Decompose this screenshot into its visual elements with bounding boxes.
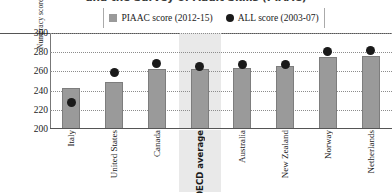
bar-netherlands bbox=[362, 56, 380, 129]
dot-italy bbox=[67, 98, 76, 107]
bar-norway bbox=[319, 57, 337, 129]
gridline bbox=[50, 52, 392, 53]
y-axis-tick-label: 200 bbox=[22, 124, 48, 134]
gridline bbox=[50, 33, 392, 34]
numeracy-score-chart: and the Survey of Adult Skills (PIAAC) P… bbox=[0, 0, 392, 193]
bar-australia bbox=[233, 68, 251, 129]
x-axis-tick-label: Australia bbox=[237, 130, 247, 163]
x-label-australia: Australia bbox=[221, 130, 263, 192]
bar-new-zealand bbox=[276, 66, 294, 129]
dot-canada bbox=[152, 59, 161, 68]
chart-legend: PIAAC score (2012-15) ALL score (2003-07… bbox=[106, 9, 322, 27]
x-axis-line bbox=[50, 128, 392, 129]
x-axis-tick-label: New Zealand bbox=[280, 130, 290, 178]
dot-netherlands bbox=[366, 46, 375, 55]
x-label-canada: Canada bbox=[136, 130, 178, 192]
y-axis-tick-label: 280 bbox=[22, 47, 48, 57]
x-axis-tick-label: Norway bbox=[323, 130, 333, 159]
dot-new-zealand bbox=[281, 60, 290, 69]
x-label-norway: Norway bbox=[307, 130, 349, 192]
dot-australia bbox=[238, 60, 247, 69]
bar-oecd-average bbox=[191, 69, 209, 129]
x-axis-tick-label: Italy bbox=[66, 130, 76, 147]
square-swatch-icon bbox=[109, 14, 117, 22]
x-axis-tick-label: United States bbox=[109, 130, 119, 178]
x-axis-labels: ItalyUnited StatesCanadaOECD averageAust… bbox=[50, 130, 392, 193]
x-label-netherlands: Netherlands bbox=[350, 130, 392, 192]
x-label-italy: Italy bbox=[50, 130, 92, 192]
y-axis-tick-label: 220 bbox=[22, 105, 48, 115]
x-axis-tick-label: OECD average bbox=[195, 130, 205, 193]
y-axis-label: Numeracy score bbox=[36, 0, 45, 49]
dot-norway bbox=[323, 47, 332, 56]
x-label-new-zealand: New Zealand bbox=[264, 130, 306, 192]
gridline bbox=[50, 91, 392, 92]
y-axis-tick-label: 260 bbox=[22, 66, 48, 76]
circle-swatch-icon bbox=[226, 14, 234, 22]
bar-italy bbox=[62, 88, 80, 129]
x-label-oecd-average: OECD average bbox=[179, 130, 221, 192]
y-axis-tick-label: 300 bbox=[22, 28, 48, 38]
legend-entry-piaac: PIAAC score (2012-15) bbox=[109, 13, 212, 23]
y-axis-tick-label: 240 bbox=[22, 86, 48, 96]
chart-title: and the Survey of Adult Skills (PIAAC) bbox=[0, 0, 392, 3]
legend-label-all: ALL score (2003-07) bbox=[238, 13, 319, 23]
gridline bbox=[50, 110, 392, 111]
x-axis-tick-label: Netherlands bbox=[366, 130, 376, 173]
y-axis-line bbox=[50, 33, 51, 129]
legend-entry-all: ALL score (2003-07) bbox=[226, 13, 319, 23]
bar-canada bbox=[148, 69, 166, 129]
gridline bbox=[50, 71, 392, 72]
dot-united-states bbox=[110, 68, 119, 77]
bar-united-states bbox=[105, 82, 123, 129]
x-label-united-states: United States bbox=[93, 130, 135, 192]
x-axis-tick-label: Canada bbox=[152, 130, 162, 157]
plot-area: Numeracy score 300280260240220200 bbox=[50, 33, 392, 129]
legend-label-piaac: PIAAC score (2012-15) bbox=[121, 13, 212, 23]
